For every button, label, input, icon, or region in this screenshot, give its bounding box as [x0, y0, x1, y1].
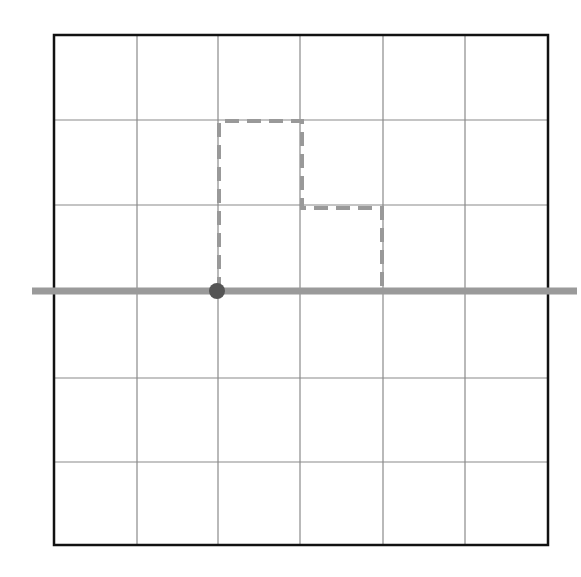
grid-diagram [0, 0, 581, 577]
start-point-dot [209, 283, 225, 299]
